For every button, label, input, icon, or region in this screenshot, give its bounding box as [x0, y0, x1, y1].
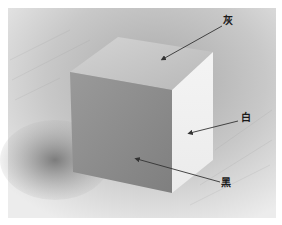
cube-sketch: 灰 白 黑	[0, 0, 282, 225]
label-white: 白	[241, 113, 251, 123]
label-black: 黑	[221, 178, 231, 188]
cube-drawing	[0, 0, 282, 225]
label-gray: 灰	[223, 16, 233, 26]
